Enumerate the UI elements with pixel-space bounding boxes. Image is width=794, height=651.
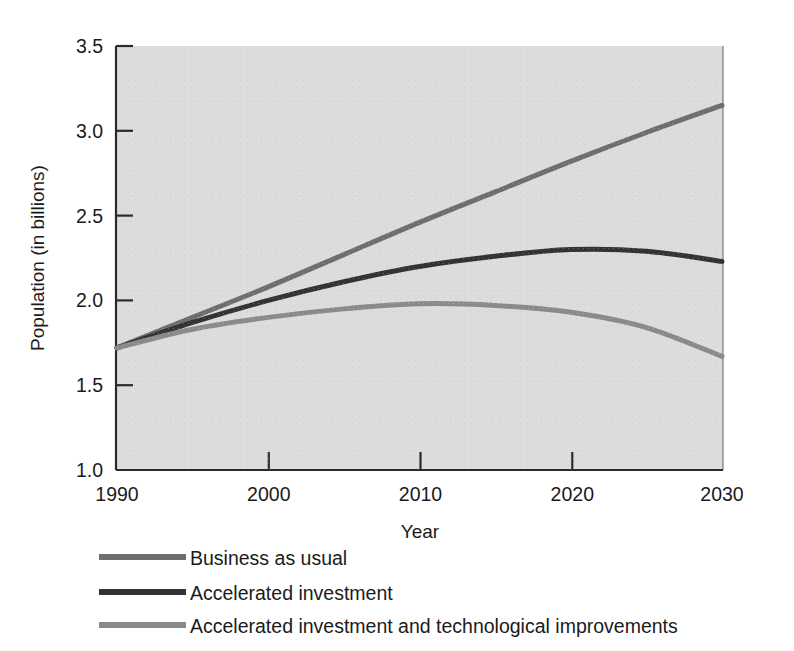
legend-label-accelerated-investment-and-technological-improvements: Accelerated investment and technological… — [190, 615, 678, 637]
legend-item-accelerated-investment-and-technological-improvements[interactable]: Accelerated investment and technological… — [99, 615, 678, 637]
y-tick-label-2-0: 2.0 — [76, 289, 103, 311]
y-tick-label-2-5: 2.5 — [76, 205, 103, 227]
legend-item-business-as-usual[interactable]: Business as usual — [99, 547, 347, 569]
plot-area-background — [116, 46, 723, 470]
x-axis-title: Year — [401, 521, 440, 542]
x-tick-label-2020: 2020 — [551, 483, 595, 505]
y-tick-label-3-0: 3.0 — [76, 120, 103, 142]
legend-label-accelerated-investment: Accelerated investment — [190, 582, 393, 604]
legend-item-accelerated-investment[interactable]: Accelerated investment — [99, 582, 393, 604]
x-tick-label-2030: 2030 — [700, 483, 744, 505]
population-projection-chart: 3.5 3.0 2.5 2.0 1.5 1.0 1990 2000 2010 2… — [0, 0, 794, 651]
figure-container: 3.5 3.0 2.5 2.0 1.5 1.0 1990 2000 2010 2… — [0, 0, 794, 651]
x-tick-label-1990: 1990 — [95, 483, 139, 505]
y-tick-label-1-0: 1.0 — [76, 459, 103, 481]
x-tick-label-2000: 2000 — [247, 483, 291, 505]
y-axis-title: Population (in billions) — [27, 165, 48, 351]
y-tick-label-1-5: 1.5 — [76, 374, 103, 396]
x-tick-label-2010: 2010 — [399, 483, 443, 505]
y-tick-label-3-5: 3.5 — [76, 35, 103, 57]
chart-legend: Business as usual Accelerated investment… — [99, 547, 678, 637]
legend-label-business-as-usual: Business as usual — [190, 547, 347, 569]
